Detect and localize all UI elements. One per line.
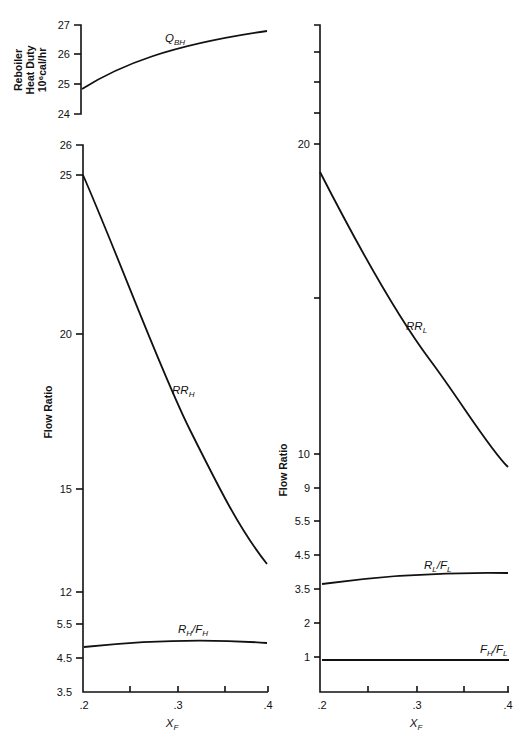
- tick-label: 2: [304, 617, 310, 629]
- tick-label: 4.5: [295, 549, 310, 561]
- tick-label: 5.5: [57, 618, 72, 630]
- figure: 27 26 25 24 Reboiler Heat Duty 10⁶cal/hr…: [0, 0, 530, 744]
- axes-right: [314, 25, 509, 692]
- curve-rh-fh: [84, 640, 267, 647]
- tick-label: 10: [298, 448, 310, 460]
- tick-label: 12: [60, 586, 72, 598]
- curve-label-fh-fl: FH/FL: [480, 643, 508, 658]
- x-tick-label: .4: [263, 699, 272, 711]
- tick-label: 27: [58, 19, 70, 31]
- x-tick-label: .2: [79, 699, 88, 711]
- x-tick-label: .2: [317, 699, 326, 711]
- x-tick-label: .4: [503, 699, 512, 711]
- tick-label: 26: [58, 48, 70, 60]
- tick-label: 1: [304, 651, 310, 663]
- curve-label-q-bh: QBH: [165, 32, 185, 47]
- curve-label-rr-l: RRL: [406, 320, 427, 335]
- tick-label: 20: [298, 138, 310, 150]
- y-axis-title-left: Flow Ratio: [42, 385, 54, 438]
- tick-label: 25: [58, 78, 70, 90]
- curve-rl-fl: [322, 573, 508, 584]
- tick-label: 3.5: [57, 686, 72, 698]
- tick-label: 24: [58, 108, 70, 120]
- tick-label: 9: [304, 482, 310, 494]
- reboiler-heat-duty-chart: 27 26 25 24 Reboiler Heat Duty 10⁶cal/hr…: [12, 19, 267, 120]
- x-axis-title-left: XF: [165, 717, 180, 732]
- svg-text:Heat Duty: Heat Duty: [24, 45, 36, 94]
- curve-label-rl-fl: RL/FL: [424, 559, 451, 574]
- flow-ratio-left-chart: 26 25 20 15 12 5.5 4.5 3.5 .2 .3 .4 XF F…: [42, 139, 273, 732]
- x-tick-label: .3: [412, 699, 421, 711]
- tick-label: 25: [60, 169, 72, 181]
- svg-text:10⁶cal/hr: 10⁶cal/hr: [36, 48, 48, 93]
- curve-rr-h: [83, 175, 267, 564]
- y-axis-title-right: Flow Ratio: [277, 443, 289, 496]
- tick-label: 3.5: [295, 583, 310, 595]
- tick-label: 20: [60, 328, 72, 340]
- y-axis-title-reboiler: Reboiler Heat Duty 10⁶cal/hr: [12, 45, 48, 94]
- tick-label: 26: [60, 139, 72, 151]
- y-axis-top-left: [74, 25, 81, 114]
- curve-label-rh-fh: RH/FH: [178, 623, 208, 638]
- x-tick-label: .3: [173, 699, 182, 711]
- svg-text:Reboiler: Reboiler: [12, 49, 24, 91]
- flow-ratio-right-chart: 20 10 9 5.5 4.5 3.5 2 1 .2 .3 .4 XF Flow…: [277, 25, 513, 732]
- tick-label: 4.5: [57, 652, 72, 664]
- tick-label: 15: [60, 483, 72, 495]
- tick-label: 5.5: [295, 515, 310, 527]
- x-axis-title-right: XF: [409, 717, 424, 732]
